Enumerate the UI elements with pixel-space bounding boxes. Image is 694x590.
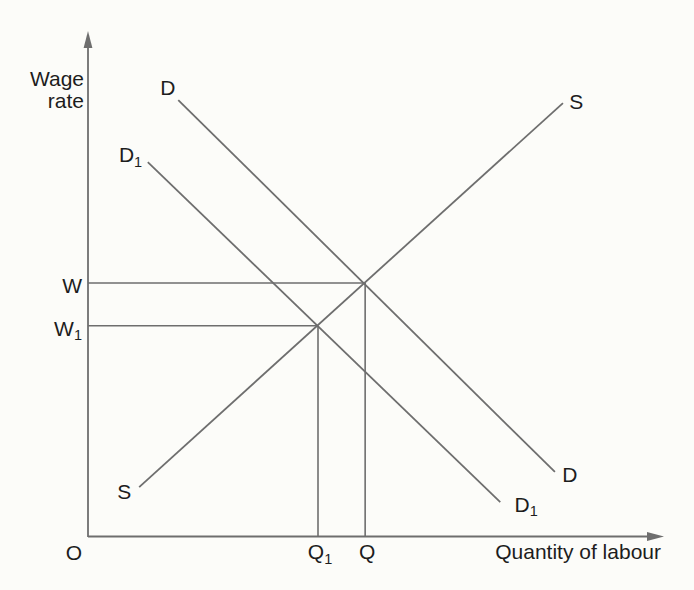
origin-label: O xyxy=(66,541,82,564)
y-axis-arrowhead-icon xyxy=(84,31,93,48)
wage-label-w1: W1 xyxy=(54,317,82,344)
x-axis-label: Quantity of labour xyxy=(495,540,661,563)
quantity-label-q1-subscript: 1 xyxy=(324,551,332,567)
quantity-label-q: Q xyxy=(359,540,375,563)
y-axis-label-line-1: Wage xyxy=(30,67,84,90)
curve-label-d1-start: D1 xyxy=(119,143,142,170)
curve-label-d-start: D xyxy=(160,76,175,99)
curve-d1 xyxy=(148,162,500,502)
quantity-label-q1: Q1 xyxy=(308,540,332,567)
curve-s xyxy=(139,103,563,487)
curve-label-d1-start-subscript: 1 xyxy=(134,154,142,170)
labour-market-diagram: WagerateQuantity of labourOWQW1Q1DDD1D1S… xyxy=(0,0,694,590)
curve-label-s-start: S xyxy=(117,480,131,503)
wage-label-w1-subscript: 1 xyxy=(74,327,82,343)
wage-label-w: W xyxy=(62,274,82,297)
curve-label-d1-end: D1 xyxy=(515,493,538,520)
curve-label-d-end: D xyxy=(562,463,577,486)
curve-label-s-end: S xyxy=(569,90,583,113)
curve-d xyxy=(178,100,555,472)
labour-market-figure: WagerateQuantity of labourOWQW1Q1DDD1D1S… xyxy=(0,0,694,590)
y-axis-label-line-2: rate xyxy=(48,89,84,112)
curve-label-d1-end-subscript: 1 xyxy=(530,503,538,519)
